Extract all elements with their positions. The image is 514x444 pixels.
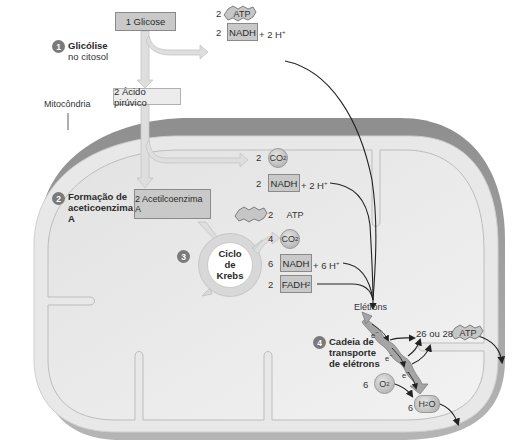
stage-4-title-line1: Cadeia de <box>329 336 374 347</box>
electron-label-2: e− <box>385 350 393 364</box>
stage-2-number-badge: 2 <box>52 192 65 205</box>
acetyl-co2-molecule: CO2 <box>268 148 288 168</box>
krebs-nadh-suffix: + 6 H+ <box>313 258 340 271</box>
krebs-nadh-count: 6 <box>268 258 273 269</box>
stage-4-title-line2: transporte <box>329 347 376 358</box>
glycolysis-nadh-suffix: + 2 H+ <box>259 27 286 40</box>
glycolysis-atp-label: ATP <box>228 7 256 20</box>
stage-4-title-line3: de elétrons <box>329 358 380 369</box>
glicose-box: 1 Glicose <box>115 12 176 31</box>
acetyl-nadh-suffix: + 2 H+ <box>301 178 328 191</box>
krebs-fadh-box: FADH2 <box>280 275 312 293</box>
glycolysis-nadh-box: NADH <box>227 23 258 41</box>
krebs-nadh-box: NADH <box>280 254 312 272</box>
h2o-count: 6 <box>408 403 413 414</box>
eletrons-label: Elétrons <box>354 302 387 313</box>
acetyl-nadh-box: NADH <box>268 174 300 192</box>
stage-2-title-line1: Formação de <box>68 191 127 202</box>
krebs-co2-count: 4 <box>268 233 273 244</box>
acido-piruvico-box: 2 Ácido pirúvico <box>113 88 181 105</box>
stage-4-number-badge: 4 <box>313 336 326 349</box>
cellular-respiration-diagram: Mitocôndria 1 Glicólise no citosol 1 Gli… <box>0 0 514 444</box>
stage-2-title-line2: aceticoenzima <box>68 202 133 213</box>
krebs-co2-molecule: CO2 <box>280 229 300 249</box>
o2-count: 6 <box>363 379 368 390</box>
acetilcoenzima-box: 2 Acetilcoenzima A <box>134 189 211 219</box>
electron-label-3: e− <box>402 367 410 381</box>
etc-atp-count: 26 ou 28 <box>416 328 453 339</box>
acetyl-co2-count: 2 <box>256 152 261 163</box>
krebs-atp-label <box>239 208 269 221</box>
stage-1-title: Glicólise <box>68 40 108 51</box>
stage-1-number-badge: 1 <box>52 40 65 53</box>
krebs-fadh-count: 2 <box>268 279 273 290</box>
mitochondria-label: Mitocôndria <box>44 99 91 110</box>
krebs-atp-text: ATP <box>281 208 309 221</box>
etc-atp-label: ATP <box>453 326 483 339</box>
o2-molecule: O2 <box>374 373 395 394</box>
diagram-graphics <box>0 0 514 444</box>
stage-2-title-line3: A <box>68 213 75 224</box>
glycolysis-atp-count: 2 <box>216 8 221 19</box>
stage-3-number-badge: 3 <box>177 250 190 263</box>
acetyl-nadh-count: 2 <box>256 178 261 189</box>
glycolysis-nadh-count: 2 <box>216 27 221 38</box>
stage-1-subtitle: no citosol <box>68 51 108 62</box>
electron-label-1: e− <box>371 327 379 341</box>
h2o-molecule: H2O <box>414 395 440 413</box>
krebs-cycle-label: Ciclo de Krebs <box>210 248 250 281</box>
